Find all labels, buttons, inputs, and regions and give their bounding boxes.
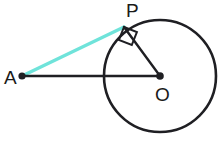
label-point-p: P: [126, 0, 139, 21]
geometry-canvas: P A O: [0, 0, 219, 147]
point-o-dot: [156, 72, 164, 80]
point-a-dot: [18, 72, 25, 79]
geometry-diagram: P A O: [0, 0, 219, 147]
label-point-a: A: [4, 67, 17, 88]
radius-segment-op: [124, 27, 160, 76]
label-point-o: O: [155, 84, 170, 105]
